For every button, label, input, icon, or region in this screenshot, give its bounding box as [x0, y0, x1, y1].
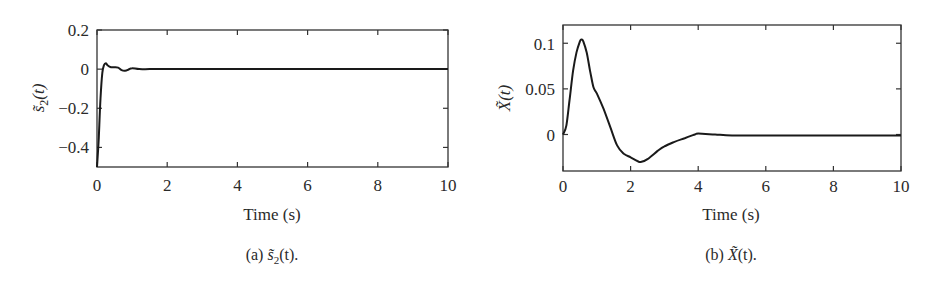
y-axis-symbol: X̃	[495, 100, 514, 112]
xtick-label: 10	[893, 177, 910, 196]
xtick-label: 2	[163, 176, 172, 195]
xtick-label: 10	[440, 176, 457, 195]
xtick-label: 2	[626, 177, 635, 196]
ytick-label: 0	[81, 60, 90, 79]
ytick-label: −0.4	[58, 138, 89, 157]
panel-b: 0.1 0.05 0 0 2 4 6 8 10 Time (s) X̃(t) (…	[495, 25, 910, 264]
panel-a: 0.2 0 −0.2 −0.4 0 2 4 6 8 10 Time (s) s̃…	[29, 21, 457, 266]
y-axis-arg: (t)	[29, 83, 48, 99]
figure: 0.2 0 −0.2 −0.4 0 2 4 6 8 10 Time (s) s̃…	[0, 0, 925, 288]
xtick-label: 0	[93, 176, 102, 195]
caption-arg: (t).	[738, 246, 757, 264]
svg-text:s̃2(t): s̃2(t)	[29, 83, 51, 112]
caption-b: (b) X̃(t).	[705, 246, 757, 264]
y-axis-arg: (t)	[495, 84, 514, 100]
xtick-label: 6	[303, 176, 312, 195]
xtick-label: 0	[559, 177, 568, 196]
line-series-x	[563, 40, 901, 162]
ytick-label: 0	[547, 126, 556, 145]
ticks-a	[97, 30, 448, 167]
xtick-label: 6	[762, 177, 771, 196]
caption-prefix: (b)	[705, 246, 728, 264]
ytick-label: 0.2	[68, 21, 89, 40]
x-axis-title: Time (s)	[243, 205, 300, 224]
ytick-label: 0.05	[525, 80, 555, 99]
xtick-label: 8	[374, 176, 383, 195]
xtick-label: 4	[233, 176, 242, 195]
y-axis-title: s̃2(t)	[29, 83, 51, 112]
plot-area-b	[563, 25, 901, 171]
ytick-label: 0.1	[534, 35, 555, 54]
ticks-b	[563, 25, 901, 171]
caption-prefix: (a)	[246, 246, 268, 264]
xtick-label: 4	[694, 177, 703, 196]
ytick-label: −0.2	[58, 99, 89, 118]
y-axis-title: X̃(t)	[495, 84, 514, 112]
caption-arg: (t).	[279, 246, 298, 264]
svg-text:X̃(t): X̃(t)	[495, 84, 514, 112]
caption-a: (a) s̃2(t).	[246, 246, 299, 266]
line-series-s2	[97, 63, 448, 167]
plot-area-a	[97, 30, 448, 167]
xtick-label: 8	[829, 177, 838, 196]
x-axis-title: Time (s)	[702, 205, 759, 224]
